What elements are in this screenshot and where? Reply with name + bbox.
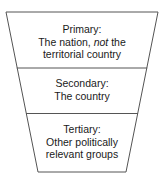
section-title-primary: Primary: [0,23,162,36]
section-line-primary-2: The nation, not the [0,36,162,49]
funnel-section-primary: Primary: The nation, not the territorial… [0,23,162,61]
funnel-section-tertiary: Tertiary: Other politically relevant gro… [0,123,162,161]
section-title-tertiary: Tertiary: [0,123,162,136]
primary-line2-emphasis: not [94,36,109,48]
primary-line2-suffix: the [108,36,126,48]
section-line-tertiary-2: Other politically [0,136,162,149]
section-title-secondary: Secondary: [0,77,162,90]
primary-line2-prefix: The nation, [38,36,93,48]
section-line-secondary-2: The country [0,90,162,103]
funnel-section-secondary: Secondary: The country [0,77,162,102]
section-line-primary-3: territorial country [0,48,162,61]
section-line-tertiary-3: relevant groups [0,148,162,161]
